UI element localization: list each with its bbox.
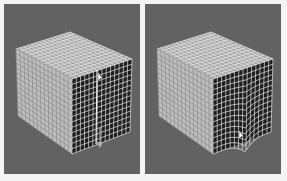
viewport-left[interactable]	[4, 4, 140, 174]
viewport-right[interactable]	[145, 4, 281, 174]
cube-mesh-left[interactable]	[4, 4, 140, 174]
cube-mesh-right[interactable]	[145, 4, 281, 174]
